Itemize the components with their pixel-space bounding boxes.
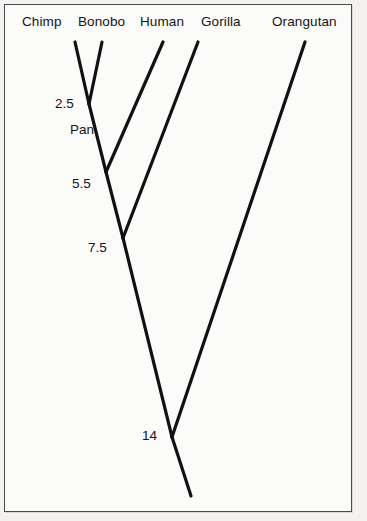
branch-Hominidae-root-to-root-stem: [172, 437, 191, 496]
branch-Pan-to-Homininae-Pan-Human: [89, 104, 106, 172]
taxon-label-human: Human: [140, 14, 184, 29]
node-label-7-5: 7.5: [88, 240, 107, 255]
node-label-2-5: 2.5: [55, 96, 74, 111]
branch-Bonobo-to-Pan: [89, 42, 102, 104]
branch-Chimp-to-Pan: [75, 42, 89, 104]
branch-Homininae-Pan-Human-to-Homininae-with-Gorilla: [106, 172, 123, 238]
taxon-label-bonobo: Bonobo: [78, 14, 125, 29]
taxon-label-orangutan: Orangutan: [272, 14, 337, 29]
branch-Homininae-with-Gorilla-to-Hominidae-root: [123, 238, 172, 437]
branch-Gorilla-to-Homininae-with-Gorilla: [123, 42, 198, 238]
node-label-5-5: 5.5: [72, 176, 91, 191]
phylogenetic-tree-figure: Chimp Bonobo Human Gorilla Orangutan 2.5…: [0, 0, 367, 521]
node-label-14: 14: [142, 428, 157, 443]
tree-branches: [0, 0, 367, 521]
taxon-label-gorilla: Gorilla: [201, 14, 241, 29]
clade-label-pan: Pan: [70, 122, 94, 137]
taxon-label-chimp: Chimp: [22, 14, 62, 29]
branch-Orangutan-to-Hominidae-root: [172, 42, 305, 437]
